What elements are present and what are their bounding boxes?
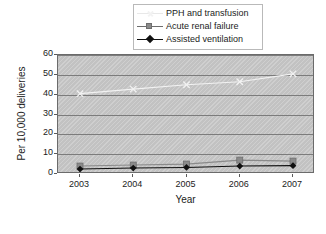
legend-marker-renal-icon	[137, 21, 163, 32]
data-point	[236, 163, 243, 170]
x-tick-label: 2006	[229, 179, 249, 189]
x-tick-mark	[239, 174, 240, 177]
x-tick-label: 2005	[175, 179, 195, 189]
x-tick-mark	[79, 174, 80, 177]
x-tick-mark	[132, 174, 133, 177]
x-axis: 20032004200520062007	[57, 174, 314, 194]
legend-label: Assisted ventilation	[166, 34, 243, 45]
legend-marker-pph-icon	[137, 8, 163, 19]
y-tick-mark	[54, 153, 57, 154]
chart-figure: PPH and transfusion Acute renal failure …	[0, 0, 326, 234]
x-tick-label: 2004	[122, 179, 142, 189]
y-tick-mark	[54, 94, 57, 95]
y-axis-title-wrap: Per 10,000 deliveries	[8, 50, 22, 170]
series-line-pph-and-transfusion	[80, 74, 293, 94]
legend-item-assisted-ventilation: Assisted ventilation	[137, 33, 259, 46]
legend-marker-ventilation-icon	[137, 34, 163, 45]
y-tick-mark	[54, 54, 57, 55]
series-lines	[58, 55, 314, 173]
plot-area	[57, 54, 314, 173]
legend-item-acute-renal-failure: Acute renal failure	[137, 20, 259, 33]
x-tick-label: 2007	[282, 179, 302, 189]
y-axis-title: Per 10,000 deliveries	[16, 54, 27, 174]
legend-label: PPH and transfusion	[166, 8, 249, 19]
y-tick-mark	[54, 133, 57, 134]
y-tick-mark	[54, 74, 57, 75]
x-tick-mark	[186, 174, 187, 177]
x-tick-mark	[292, 174, 293, 177]
data-point	[237, 157, 243, 163]
x-axis-title: Year	[57, 194, 314, 205]
y-tick-mark	[54, 114, 57, 115]
x-tick-label: 2003	[69, 179, 89, 189]
chart-legend: PPH and transfusion Acute renal failure …	[133, 4, 263, 50]
legend-item-pph-and-transfusion: PPH and transfusion	[137, 7, 259, 20]
legend-label: Acute renal failure	[166, 21, 239, 32]
